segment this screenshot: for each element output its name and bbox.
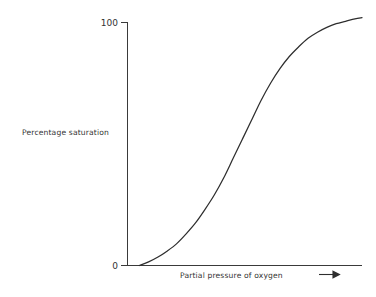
y-axis-title: Percentage saturation: [22, 128, 109, 137]
y-tick-label-100: 100: [101, 18, 118, 28]
x-axis-title: Partial pressure of oxygen: [180, 271, 283, 280]
chart-background: [0, 0, 376, 297]
y-tick-label-0: 0: [112, 261, 118, 271]
oxygen-dissociation-chart: 100 0 Percentage saturation Partial pres…: [0, 0, 376, 297]
